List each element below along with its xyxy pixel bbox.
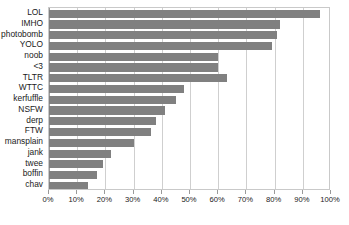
x-axis-tick-labels: 0%10%20%30%40%50%60%70%80%90%100% [48,195,330,207]
bar [49,31,277,39]
bar [49,182,88,190]
bar [49,139,134,147]
x-axis-label: 60% [210,195,225,204]
y-axis-label: YOLO [0,39,45,50]
bar-row [49,30,330,41]
bar [49,74,227,82]
x-axis-tick [330,190,331,194]
x-axis-label: 90% [294,195,309,204]
bar [49,85,184,93]
x-axis-tick [133,190,134,194]
y-axis-label: NSFW [0,104,45,115]
bar-series [49,8,329,189]
x-axis-label: 80% [266,195,281,204]
bar [49,160,103,168]
y-axis-label: derp [0,115,45,126]
x-axis-label: 100% [320,195,339,204]
y-axis-label: twee [0,158,45,169]
x-axis-label: 50% [181,195,196,204]
bar [49,96,176,104]
y-axis-label: <3 [0,61,45,72]
bar [49,128,151,136]
bar [49,53,218,61]
bar-row [49,126,330,137]
x-axis-label: 20% [97,195,112,204]
y-axis-label: LOL [0,7,45,18]
bar [49,63,218,71]
bar-row [49,169,330,180]
y-axis-label: TLTR [0,72,45,83]
x-axis-tick [76,190,77,194]
x-axis-tick [189,190,190,194]
bar [49,150,111,158]
bar-row [49,116,330,127]
y-axis-label: WTTC [0,82,45,93]
y-axis-label: photobomb [0,29,45,40]
bar-row [49,94,330,105]
bar [49,10,320,18]
bar-row [49,62,330,73]
bar-chart: LOLIMHOphotobombYOLOnoob<3TLTRWTTCkerfuf… [0,0,349,225]
x-axis-tick [161,190,162,194]
bar-row [49,137,330,148]
bar [49,42,272,50]
x-axis-tick [245,190,246,194]
bar-row [49,180,330,190]
y-axis-label: IMHO [0,18,45,29]
bar [49,106,165,114]
bar-row [49,40,330,51]
x-axis-tick [48,190,49,194]
x-axis-tick [302,190,303,194]
bar-row [49,73,330,84]
bar-row [49,8,330,19]
y-axis-label: FTW [0,125,45,136]
bar [49,171,97,179]
x-axis-label: 0% [43,195,54,204]
y-axis-label: noob [0,50,45,61]
x-axis-label: 40% [153,195,168,204]
y-axis-label: jank [0,147,45,158]
x-axis-label: 10% [69,195,84,204]
y-axis-label: chav [0,179,45,190]
x-axis-tick [274,190,275,194]
bar-row [49,51,330,62]
x-axis-tick [104,190,105,194]
y-axis-label: kerfuffle [0,93,45,104]
y-axis-label: boffin [0,168,45,179]
bar-row [49,19,330,30]
bar [49,20,280,28]
bar-row [49,159,330,170]
x-axis-label: 30% [125,195,140,204]
y-axis-label: mansplain [0,136,45,147]
x-axis-tick [217,190,218,194]
bar-row [49,148,330,159]
x-axis-label: 70% [238,195,253,204]
bar [49,117,156,125]
bar-row [49,105,330,116]
plot-area [48,7,330,190]
bar-row [49,83,330,94]
y-axis-category-labels: LOLIMHOphotobombYOLOnoob<3TLTRWTTCkerfuf… [0,7,45,190]
